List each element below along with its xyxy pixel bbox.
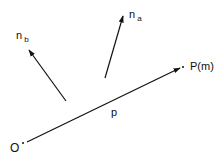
- vector-n-b-arrow: [29, 50, 66, 101]
- n-b-subscript: b: [24, 35, 28, 44]
- point-label: P(m): [190, 61, 214, 72]
- point-dot: [182, 66, 184, 68]
- n-b-main: n: [16, 29, 22, 41]
- diagram-canvas: [0, 0, 223, 162]
- origin-dot: [22, 142, 24, 144]
- origin-label: O: [10, 142, 19, 154]
- n-b-label: nb: [16, 30, 29, 41]
- n-a-label: na: [129, 9, 142, 20]
- n-a-subscript: a: [137, 14, 141, 23]
- vector-n-a-arrow: [105, 16, 123, 78]
- n-a-main: n: [129, 8, 135, 20]
- vector-p-label: p: [111, 107, 117, 118]
